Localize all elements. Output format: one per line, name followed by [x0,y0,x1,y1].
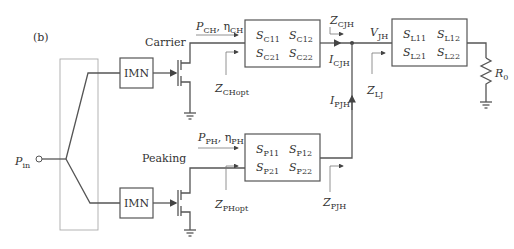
carrier-zout-label: ZCJH [329,14,354,29]
splitter-peaking-path [66,159,120,203]
splitter-carrier-path [66,73,120,159]
load-ground-icon [480,102,492,108]
load-output-wire [467,43,486,58]
peaking-transistor-icon [178,168,248,230]
resistor-label: R0 [494,67,508,82]
input-terminal [36,156,42,162]
load-impedance-label: ZLJ [366,84,383,99]
doherty-circuit-diagram: (b) Pin Carrier IMN PCH, ηCH ZCHopt SC11… [0,0,514,249]
peaking-zopt-arrow [226,166,238,190]
carrier-imn-label: IMN [124,67,150,80]
carrier-power-label: PCH, ηCH [195,20,243,35]
power-splitter-box [60,59,98,230]
carrier-ground-icon [184,113,196,119]
peaking-zout-arrow [330,166,343,192]
peaking-zopt-label: ZPHopt [214,198,249,213]
peaking-current-label: IPJH [329,94,350,109]
peaking-zout-label: ZPJH [322,196,346,211]
peaking-imn-label: IMN [124,197,150,210]
junction-voltage-label: VJH [370,26,388,41]
resistor-icon [481,58,491,102]
carrier-current-label: ICJH [328,53,350,68]
carrier-zopt-arrow [226,52,238,75]
carrier-transistor-icon [178,43,248,113]
figure-label: (b) [33,31,49,44]
input-power-label: Pin [14,155,30,170]
peaking-label: Peaking [142,152,186,165]
carrier-zopt-label: ZCHopt [214,82,250,97]
peaking-output-wire [320,155,352,158]
peaking-ground-icon [184,230,196,236]
peaking-power-label: PPH, ηPH [197,131,244,146]
load-impedance-arrow [372,53,385,74]
carrier-label: Carrier [145,36,187,49]
